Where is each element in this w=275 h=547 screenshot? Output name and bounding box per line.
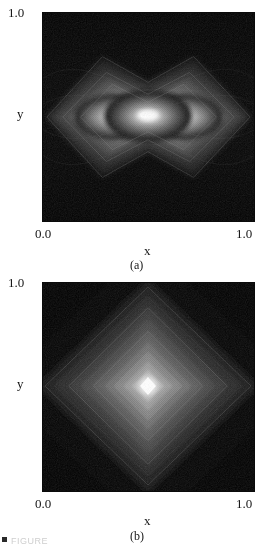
figure-bullet-icon: [2, 537, 7, 542]
panel-a-caption: (a): [130, 259, 143, 271]
panel-a-xtick-max: 1.0: [236, 227, 252, 240]
panel-a-ylabel: y: [17, 107, 24, 120]
figure-caption-text: FIGURE: [11, 536, 48, 546]
plot-b-image: [42, 282, 255, 492]
panel-b-xtick-max: 1.0: [236, 497, 252, 510]
panel-b-ytick-top: 1.0: [8, 276, 24, 289]
figure-caption-line: FIGURE: [0, 536, 275, 547]
panel-b: 1.0 y 0.0 1.0 x (b): [0, 275, 275, 547]
vertical-falloff-a: [43, 13, 254, 221]
plot-b-svg: [43, 283, 254, 491]
plot-a-svg: [43, 13, 254, 221]
figure-container: 1.0 y 0.0 1.0 x (a): [0, 0, 275, 547]
plot-a-image: [42, 12, 255, 222]
panel-b-xtick-min: 0.0: [35, 497, 51, 510]
panel-a-xlabel: x: [144, 244, 151, 257]
panel-a-xtick-min: 0.0: [35, 227, 51, 240]
panel-b-ylabel: y: [17, 377, 24, 390]
panel-a: 1.0 y 0.0 1.0 x (a): [0, 0, 275, 275]
panel-b-xlabel: x: [144, 514, 151, 527]
panel-a-ytick-top: 1.0: [8, 6, 24, 19]
